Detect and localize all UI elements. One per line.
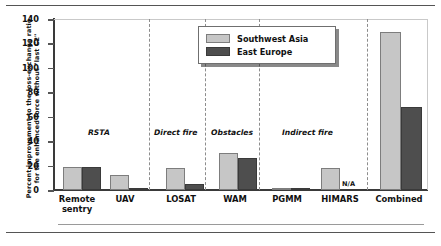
bar-uav-southwest-asia — [110, 175, 129, 190]
bar-wam-east-europe — [238, 158, 257, 190]
x-axis-base-rule — [58, 224, 424, 225]
bar-group-combined — [377, 32, 425, 190]
bar-himars-southwest-asia — [321, 168, 340, 190]
legend: Southwest Asia East Europe — [198, 26, 336, 64]
bar-remote-sentry-southwest-asia — [63, 167, 82, 190]
bar-losat-southwest-asia — [166, 168, 185, 190]
x-label-remote-sentry-line1: Remote — [55, 194, 99, 204]
na-annotation: N/A — [342, 180, 355, 188]
y-tick-60: 60 — [48, 117, 54, 119]
y-tick-label-120: 120 — [22, 38, 39, 48]
section-divider-rsta-directfire — [149, 19, 150, 190]
legend-item-southwest-asia: Southwest Asia — [206, 32, 328, 45]
bar-pgmm-southwest-asia — [272, 188, 291, 190]
x-label-remote-sentry: Remote sentry — [55, 194, 99, 214]
section-label-rsta: RSTA — [88, 128, 110, 137]
y-tick-100: 100 — [48, 68, 54, 70]
x-label-pgmm: PGMM — [263, 194, 311, 204]
plot-right-border — [427, 19, 428, 190]
y-tick-label-0: 0 — [33, 185, 39, 195]
bar-group-himars: N/A — [319, 168, 361, 190]
x-label-wam: WAM — [213, 194, 257, 204]
section-label-indirect-fire: Indirect fire — [282, 128, 333, 137]
section-label-direct-fire: Direct fire — [154, 128, 197, 137]
section-divider-indirectfire-combined — [367, 19, 368, 190]
bar-group-uav — [108, 175, 150, 190]
y-tick-140: 140 — [48, 19, 54, 21]
bar-combined-southwest-asia — [380, 32, 401, 190]
x-label-uav: UAV — [103, 194, 147, 204]
bar-group-pgmm — [270, 188, 312, 190]
y-tick-20: 20 — [48, 166, 54, 168]
y-tick-80: 80 — [48, 92, 54, 94]
x-label-combined: Combined — [370, 194, 428, 204]
legend-label-east-europe: East Europe — [237, 47, 292, 57]
y-tick-120: 120 — [48, 43, 54, 45]
legend-item-east-europe: East Europe — [206, 45, 328, 58]
y-tick-0: 0 — [48, 190, 54, 192]
bar-wam-southwest-asia — [219, 153, 238, 190]
y-tick-label-20: 20 — [28, 161, 39, 171]
x-label-losat: LOSAT — [158, 194, 204, 204]
bar-combined-east-europe — [401, 107, 422, 190]
section-label-obstacles: Obstacles — [211, 128, 253, 137]
bar-losat-east-europe — [185, 184, 204, 190]
legend-swatch-east-europe — [206, 47, 230, 56]
bar-himars-east-europe-missing: N/A — [340, 168, 359, 190]
figure-top-rule — [6, 5, 435, 6]
bar-remote-sentry-east-europe — [82, 167, 101, 190]
legend-swatch-southwest-asia — [206, 34, 230, 43]
y-tick-label-40: 40 — [28, 136, 39, 146]
y-tick-label-80: 80 — [28, 87, 39, 97]
y-tick-label-100: 100 — [22, 63, 39, 73]
bar-group-losat — [164, 168, 206, 190]
y-tick-label-60: 60 — [28, 112, 39, 122]
bar-uav-east-europe — [129, 188, 148, 190]
bar-group-remote-sentry — [61, 167, 103, 190]
x-label-remote-sentry-line2: sentry — [55, 204, 99, 214]
y-tick-40: 40 — [48, 141, 54, 143]
x-label-himars: HIMARS — [314, 194, 366, 204]
figure-bottom-rule — [6, 232, 435, 233]
chart-figure: Percent improvement to the loss-exchange… — [0, 0, 441, 246]
legend-label-southwest-asia: Southwest Asia — [237, 34, 308, 44]
bar-pgmm-east-europe — [291, 188, 310, 190]
y-tick-label-140: 140 — [22, 14, 39, 24]
bar-group-wam — [217, 153, 259, 190]
